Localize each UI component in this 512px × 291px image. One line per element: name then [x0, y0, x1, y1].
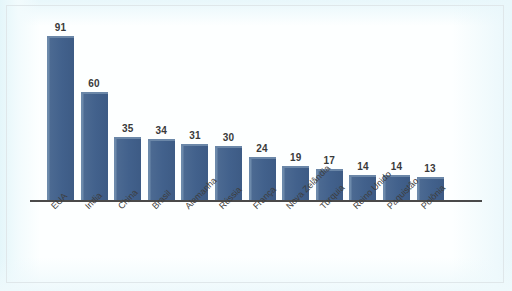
- bar-value-label: 13: [410, 163, 450, 174]
- bar-value-label: 60: [74, 78, 114, 89]
- plot-area: 916035343130241917141413 EUAIndiaChinaBr…: [0, 0, 512, 291]
- bar[interactable]: [81, 92, 108, 200]
- bar-value-label: 91: [41, 22, 81, 33]
- chart-page: 916035343130241917141413 EUAIndiaChinaBr…: [0, 0, 512, 291]
- bar-series: 916035343130241917141413: [0, 0, 512, 291]
- bar-value-label: 30: [209, 132, 249, 143]
- bar[interactable]: [47, 36, 74, 200]
